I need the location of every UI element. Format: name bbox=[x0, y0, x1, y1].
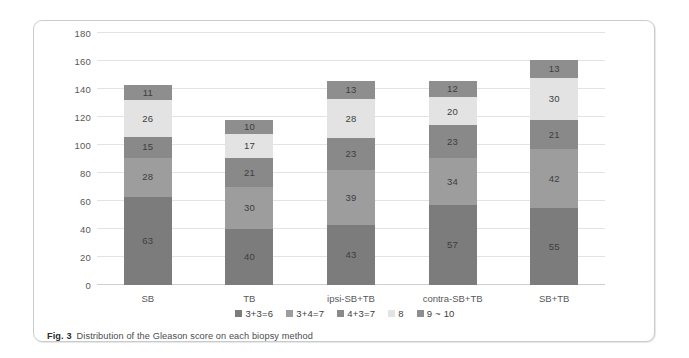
bar-stack[interactable]: 4339232813 bbox=[327, 81, 375, 285]
bar-segment[interactable]: 30 bbox=[530, 78, 578, 120]
y-axis-tick-label: 60 bbox=[80, 196, 91, 207]
bar-segment[interactable]: 42 bbox=[530, 149, 578, 208]
y-axis-tick-label: 180 bbox=[75, 28, 91, 39]
legend-label: 9 ~ 10 bbox=[427, 308, 455, 319]
bar-segment-value: 23 bbox=[346, 149, 357, 159]
bar-segment-value: 28 bbox=[142, 172, 153, 182]
legend-swatch-icon bbox=[286, 310, 293, 317]
bar-segment-value: 21 bbox=[244, 168, 255, 178]
legend-item[interactable]: 4+3=7 bbox=[337, 308, 375, 319]
bar-segment-value: 15 bbox=[142, 142, 153, 152]
y-axis-tick-label: 140 bbox=[75, 84, 91, 95]
bar-segment[interactable]: 57 bbox=[429, 205, 477, 285]
x-axis-tick-label: SB bbox=[141, 293, 154, 304]
legend-label: 3+3=6 bbox=[245, 308, 273, 319]
bar-segment[interactable]: 28 bbox=[327, 99, 375, 138]
x-axis-tick-label: contra-SB+TB bbox=[423, 293, 483, 304]
bar-segment-value: 39 bbox=[346, 193, 357, 203]
y-axis-tick-label: 120 bbox=[75, 112, 91, 123]
bar-segment[interactable]: 20 bbox=[429, 97, 477, 125]
legend-swatch-icon bbox=[388, 310, 395, 317]
legend-label: 3+4=7 bbox=[296, 308, 324, 319]
bar-stack[interactable]: 4030211710 bbox=[225, 120, 273, 285]
bar-segment-value: 34 bbox=[447, 177, 458, 187]
bar-segment-value: 26 bbox=[142, 114, 153, 124]
legend-swatch-icon bbox=[417, 310, 424, 317]
legend-item[interactable]: 9 ~ 10 bbox=[417, 308, 455, 319]
bar-segment[interactable]: 10 bbox=[225, 120, 273, 134]
bar-segment[interactable]: 26 bbox=[124, 100, 172, 136]
bar-segment[interactable]: 39 bbox=[327, 170, 375, 225]
y-axis-tick-label: 160 bbox=[75, 56, 91, 67]
bar-segment-value: 63 bbox=[142, 236, 153, 246]
legend-swatch-icon bbox=[337, 310, 344, 317]
bar-stack[interactable]: 5542213013 bbox=[530, 60, 578, 285]
bar-segment[interactable]: 34 bbox=[429, 158, 477, 206]
bar-segment-value: 40 bbox=[244, 252, 255, 262]
bar-segment-value: 12 bbox=[447, 84, 458, 94]
y-axis-tick-label: 80 bbox=[80, 168, 91, 179]
legend-swatch-icon bbox=[235, 310, 242, 317]
figure-caption: Fig. 3Distribution of the Gleason score … bbox=[47, 331, 647, 341]
legend-item[interactable]: 3+4=7 bbox=[286, 308, 324, 319]
bar-segment-value: 42 bbox=[549, 174, 560, 184]
plot-area: 020406080100120140160180 632815261140302… bbox=[97, 33, 605, 285]
legend-item[interactable]: 3+3=6 bbox=[235, 308, 273, 319]
bar-segment[interactable]: 28 bbox=[124, 158, 172, 197]
y-axis-tick-label: 40 bbox=[80, 224, 91, 235]
bar-stack[interactable]: 6328152611 bbox=[124, 85, 172, 285]
figure-caption-text: Distribution of the Gleason score on eac… bbox=[77, 331, 313, 341]
bar-segment-value: 13 bbox=[549, 64, 560, 74]
bar-segment-value: 17 bbox=[244, 141, 255, 151]
chart-legend: 3+3=63+4=74+3=789 ~ 10 bbox=[34, 308, 656, 319]
legend-label: 8 bbox=[398, 308, 403, 319]
bar-segment-value: 10 bbox=[244, 122, 255, 132]
bar-segment-value: 43 bbox=[346, 250, 357, 260]
bar-segment-value: 55 bbox=[549, 242, 560, 252]
bar-segment[interactable]: 15 bbox=[124, 137, 172, 158]
bar-segment-value: 20 bbox=[447, 107, 458, 117]
bars-layer: 6328152611403021171043392328135734232012… bbox=[97, 33, 605, 285]
bar-segment[interactable]: 13 bbox=[530, 60, 578, 78]
chart-region: 020406080100120140160180 632815261140302… bbox=[34, 21, 656, 309]
bar-segment[interactable]: 23 bbox=[429, 125, 477, 157]
bar-segment[interactable]: 21 bbox=[530, 120, 578, 149]
figure-card: 020406080100120140160180 632815261140302… bbox=[33, 20, 655, 342]
bar-segment[interactable]: 23 bbox=[327, 138, 375, 170]
bar-segment[interactable]: 40 bbox=[225, 229, 273, 285]
y-axis-tick-label: 20 bbox=[80, 252, 91, 263]
legend-label: 4+3=7 bbox=[347, 308, 375, 319]
bar-segment-value: 21 bbox=[549, 130, 560, 140]
bar-segment-value: 30 bbox=[244, 203, 255, 213]
y-axis-tick-label: 100 bbox=[75, 140, 91, 151]
bar-segment-value: 57 bbox=[447, 240, 458, 250]
bar-segment[interactable]: 63 bbox=[124, 197, 172, 285]
x-axis-tick-label: SB+TB bbox=[539, 293, 569, 304]
bar-segment[interactable]: 43 bbox=[327, 225, 375, 285]
y-axis-tick-label: 0 bbox=[86, 280, 91, 291]
x-axis-tick-label: TB bbox=[243, 293, 255, 304]
bar-segment[interactable]: 11 bbox=[124, 85, 172, 100]
bar-segment[interactable]: 17 bbox=[225, 134, 273, 158]
bar-segment[interactable]: 21 bbox=[225, 158, 273, 187]
bar-segment-value: 28 bbox=[346, 114, 357, 124]
bar-segment-value: 23 bbox=[447, 137, 458, 147]
bar-segment[interactable]: 30 bbox=[225, 187, 273, 229]
bar-segment-value: 11 bbox=[143, 88, 153, 98]
bar-stack[interactable]: 5734232012 bbox=[429, 81, 477, 285]
x-axis-tick-labels: SBTBipsi-SB+TBcontra-SB+TBSB+TB bbox=[97, 293, 605, 309]
bar-segment[interactable]: 13 bbox=[327, 81, 375, 99]
y-axis-tick-labels: 020406080100120140160180 bbox=[51, 33, 91, 285]
bar-segment[interactable]: 12 bbox=[429, 81, 477, 98]
bar-segment[interactable]: 55 bbox=[530, 208, 578, 285]
bar-segment-value: 30 bbox=[549, 94, 560, 104]
x-axis-tick-label: ipsi-SB+TB bbox=[327, 293, 375, 304]
figure-caption-label: Fig. 3 bbox=[47, 331, 72, 341]
legend-item[interactable]: 8 bbox=[388, 308, 403, 319]
bar-segment-value: 13 bbox=[346, 85, 357, 95]
